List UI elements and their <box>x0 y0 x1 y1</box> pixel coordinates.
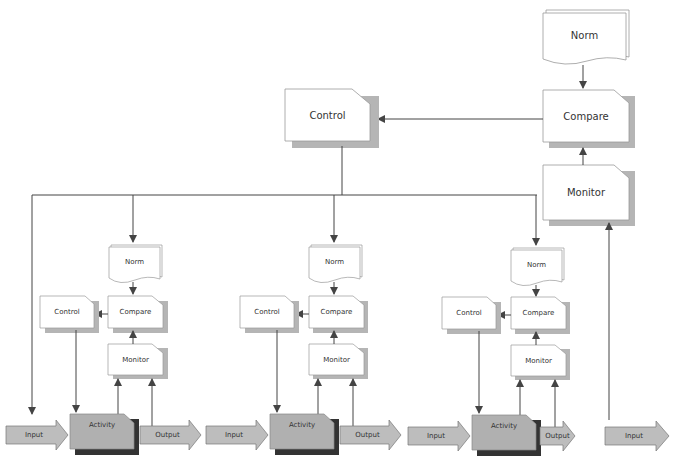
top-control-box <box>285 89 379 148</box>
top-norm-document <box>543 10 629 64</box>
top-compare-box <box>543 90 635 148</box>
final-input-arrow <box>605 421 669 451</box>
control-bus <box>32 146 537 195</box>
top-monitor-box <box>543 165 635 226</box>
unit-2 <box>206 245 401 455</box>
unit-1 <box>6 245 201 455</box>
unit-3 <box>408 248 575 456</box>
control-loop-diagram <box>0 0 675 458</box>
